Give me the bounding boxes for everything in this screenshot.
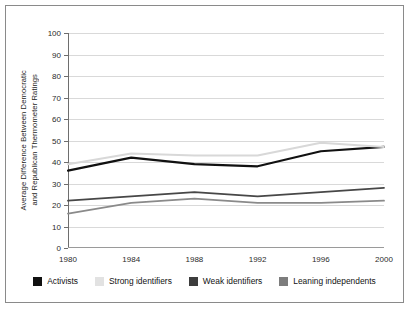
series-line (68, 188, 384, 201)
legend-label: Weak identifiers (203, 276, 262, 286)
legend-swatch-icon (279, 277, 288, 286)
y-tick-label: 0 (57, 244, 61, 253)
y-tick-label: 70 (52, 93, 61, 102)
legend-item[interactable]: Activists (33, 276, 78, 286)
y-tick-label: 40 (52, 158, 61, 167)
legend-item[interactable]: Strong identifiers (95, 276, 172, 286)
y-axis-title: Average Difference Between Democratic an… (22, 33, 36, 248)
y-tick-label: 50 (52, 136, 61, 145)
legend-label: Strong identifiers (109, 276, 172, 286)
x-tick-label: 2000 (375, 255, 393, 264)
plot-area: 0102030405060708090100 19801984198819921… (68, 33, 384, 248)
legend-swatch-icon (189, 277, 198, 286)
series-line (68, 147, 384, 171)
y-tick-label: 60 (52, 115, 61, 124)
y-tick-label: 30 (52, 179, 61, 188)
y-tick-label: 80 (52, 72, 61, 81)
legend-swatch-icon (95, 277, 104, 286)
legend-label: Leaning independents (293, 276, 375, 286)
series-line (68, 199, 384, 214)
legend-label: Activists (47, 276, 78, 286)
x-tick-label: 1996 (312, 255, 330, 264)
y-tick-label: 90 (52, 50, 61, 59)
plot-inner: 0102030405060708090100 19801984198819921… (68, 33, 384, 248)
chart-legend: ActivistsStrong identifiersWeak identifi… (6, 276, 403, 286)
x-tick-label: 1992 (249, 255, 267, 264)
x-tick-label: 1988 (185, 255, 203, 264)
x-tick-label: 1980 (59, 255, 77, 264)
y-tick-label: 100 (48, 29, 61, 38)
x-tick-label: 1984 (122, 255, 140, 264)
y-axis-title-text: Average Difference Between Democratic an… (18, 70, 40, 211)
chart-frame: Average Difference Between Democratic an… (5, 5, 404, 303)
y-tick-mark (64, 248, 68, 249)
y-tick-label: 10 (52, 222, 61, 231)
y-tick-label: 20 (52, 201, 61, 210)
legend-item[interactable]: Weak identifiers (189, 276, 262, 286)
series-lines (68, 33, 384, 248)
legend-swatch-icon (33, 277, 42, 286)
legend-item[interactable]: Leaning independents (279, 276, 375, 286)
